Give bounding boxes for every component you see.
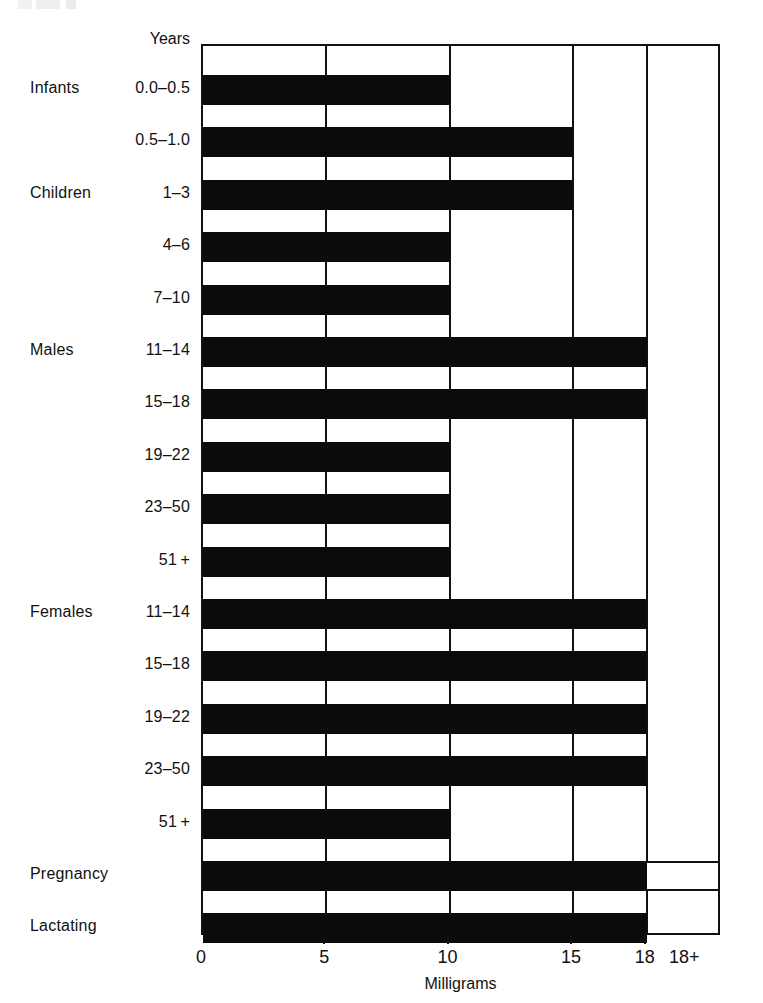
bar-51-51-+: [203, 547, 450, 577]
age-label-15-18: 15–18: [110, 656, 190, 672]
bar-pregnancy: [203, 861, 647, 891]
bar-females-11-14: [203, 599, 647, 629]
age-label-23-50: 23–50: [110, 761, 190, 777]
bar-19-22-19-22: [203, 442, 450, 472]
bar-4-6-4-6: [203, 232, 450, 262]
group-label-females: Females: [0, 604, 118, 620]
bar-infants-0-0-0-5: [203, 75, 450, 105]
tick-label-18+: 18+: [669, 948, 700, 966]
age-label-0-5-1-0: 0.5–1.0: [110, 132, 190, 148]
tick-mark-10: [447, 935, 449, 944]
plot-area: [201, 44, 720, 935]
age-label-15-18: 15–18: [110, 394, 190, 410]
age-label-4-6: 4–6: [110, 237, 190, 253]
group-label-children: Children: [0, 185, 118, 201]
tick-mark-5: [323, 935, 325, 944]
tick-mark-18: [644, 935, 646, 944]
tick-label-10: 10: [438, 948, 458, 966]
years-axis-header: Years: [110, 31, 190, 47]
bar-lactating: [203, 913, 647, 943]
bar-children-1-3: [203, 180, 573, 210]
group-label-lactating: Lactating: [0, 918, 118, 934]
bar-23-50-23-50: [203, 494, 450, 524]
bar-19-22-19-22: [203, 704, 647, 734]
age-label-19-22: 19–22: [110, 709, 190, 725]
bar-15-18-15-18: [203, 651, 647, 681]
age-label-51-+: 51 +: [110, 552, 190, 568]
group-label-infants: Infants: [0, 80, 118, 96]
tick-label-5: 5: [319, 948, 329, 966]
age-label-19-22: 19–22: [110, 447, 190, 463]
x-axis-title: Milligrams: [201, 976, 720, 992]
age-label-1-3: 1–3: [110, 185, 190, 201]
group-label-males: Males: [0, 342, 118, 358]
bar-extension-open-ended: [647, 861, 718, 891]
tick-label-0: 0: [196, 948, 206, 966]
age-label-23-50: 23–50: [110, 499, 190, 515]
tick-mark-15: [570, 935, 572, 944]
tick-label-18: 18: [635, 948, 655, 966]
gridline-18: [646, 46, 648, 933]
age-label-11-14: 11–14: [110, 604, 190, 620]
bar-51-51-+: [203, 809, 450, 839]
bar-males-11-14: [203, 337, 647, 367]
tick-label-15: 15: [561, 948, 581, 966]
age-label-11-14: 11–14: [110, 342, 190, 358]
iron-rda-bar-chart: Years Infants0.0–0.50.5–1.0Children1–34–…: [0, 0, 763, 1003]
bar-0-5-1-0-0-5-1-0: [203, 127, 573, 157]
bar-23-50-23-50: [203, 756, 647, 786]
age-label-0-0-0-5: 0.0–0.5: [110, 80, 190, 96]
bar-7-10-7-10: [203, 285, 450, 315]
group-label-pregnancy: Pregnancy: [0, 866, 118, 882]
age-label-7-10: 7–10: [110, 290, 190, 306]
bar-15-18-15-18: [203, 389, 647, 419]
age-label-51-+: 51 +: [110, 814, 190, 830]
